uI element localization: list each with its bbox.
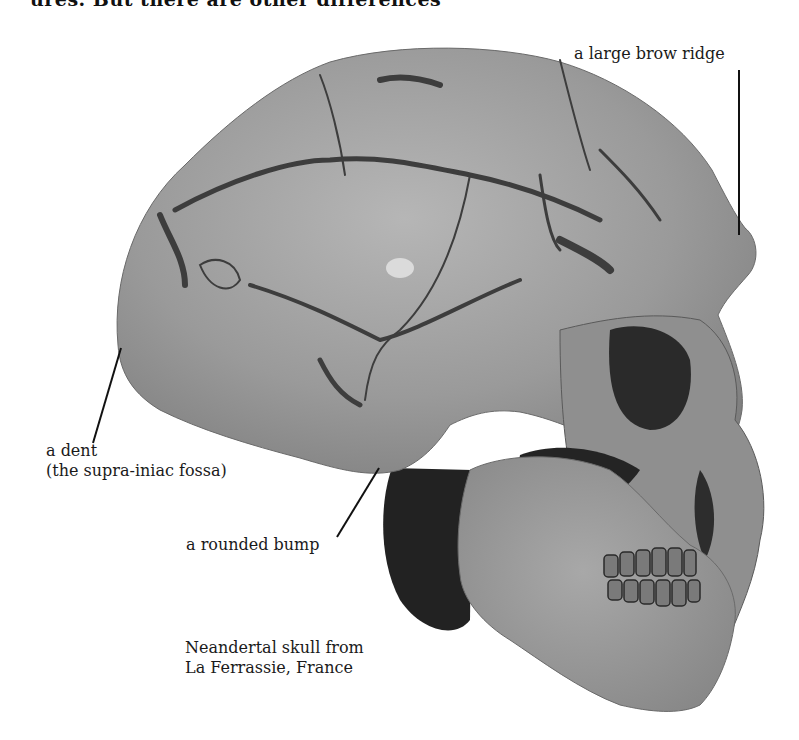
figure-caption: Neandertal skull from La Ferrassie, Fran… — [185, 638, 364, 678]
dent-leader-line — [93, 348, 121, 443]
caption-line1: Neandertal skull from — [185, 638, 364, 658]
brow-ridge-label: a large brow ridge — [574, 44, 725, 64]
dent-label-line2: (the supra-iniac fossa) — [46, 461, 227, 481]
caption-line2: La Ferrassie, France — [185, 658, 364, 678]
dent-label-line1: a dent — [46, 441, 227, 461]
bump-leader-line — [337, 468, 379, 537]
skull-figure — [0, 0, 799, 740]
highlight — [386, 258, 414, 278]
dent-label: a dent (the supra-iniac fossa) — [46, 441, 227, 481]
bump-label: a rounded bump — [186, 535, 320, 555]
